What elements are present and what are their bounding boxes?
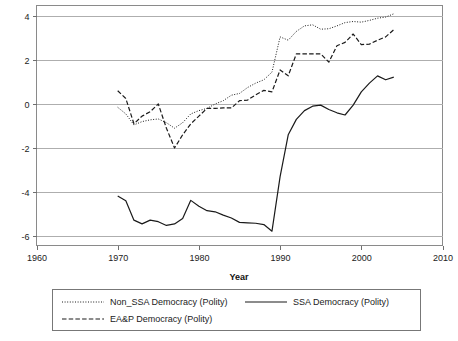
chart-legend: Non_SSA Democracy (Polity)SSA Democracy … <box>53 290 421 331</box>
x-tick-label-1970: 1970 <box>108 253 128 263</box>
democracy-polity-line-chart: 420-2-4-6 196019701980199020002010 Year … <box>0 0 458 341</box>
chart-figure: 420-2-4-6 196019701980199020002010 Year … <box>0 0 458 341</box>
legend-border <box>53 290 421 331</box>
y-tick-label-0: 0 <box>24 100 29 110</box>
legend-label-2: EA&P Democracy (Polity) <box>110 314 212 324</box>
x-tick-label-2000: 2000 <box>352 253 372 263</box>
x-tick-label-1980: 1980 <box>189 253 209 263</box>
x-tick-label-1960: 1960 <box>27 253 47 263</box>
x-tick-label-1990: 1990 <box>271 253 291 263</box>
y-tick-label--2: -2 <box>21 144 29 154</box>
y-tick-label-2: 2 <box>24 56 29 66</box>
y-tick-label--6: -6 <box>21 232 29 242</box>
y-tick-label--4: -4 <box>21 188 29 198</box>
y-tick-label-4: 4 <box>24 12 29 22</box>
x-axis-title: Year <box>229 272 249 282</box>
legend-label-0: Non_SSA Democracy (Polity) <box>110 297 228 307</box>
legend-label-1: SSA Democracy (Polity) <box>293 297 389 307</box>
x-tick-label-2010: 2010 <box>433 253 453 263</box>
